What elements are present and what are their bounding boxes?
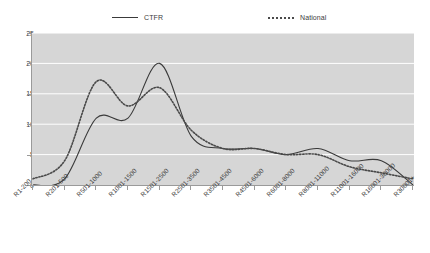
plot-svg xyxy=(32,33,414,185)
x-tick-mark xyxy=(317,186,318,190)
legend-label-national: National xyxy=(300,14,326,21)
x-tick-mark xyxy=(254,186,255,190)
plot-area xyxy=(31,33,414,186)
x-tick-mark xyxy=(380,186,381,190)
x-tick-mark xyxy=(159,186,160,190)
x-tick-mark xyxy=(127,186,128,190)
x-tick-mark xyxy=(222,186,223,190)
legend-swatch-solid-line-icon xyxy=(112,13,138,21)
x-tick-mark xyxy=(349,186,350,190)
legend-label-ctfr: CTFR xyxy=(144,14,163,21)
x-tick-mark xyxy=(64,186,65,190)
x-tick-mark xyxy=(412,186,413,190)
x-tick-mark xyxy=(95,186,96,190)
line-chart: CTFR National 2520151050 R1-200R201-500R… xyxy=(0,0,430,253)
legend-entry-national: National xyxy=(268,8,326,26)
chart-legend: CTFR National xyxy=(0,8,430,26)
x-tick-mark xyxy=(32,186,33,190)
legend-swatch-dotted-line-icon xyxy=(268,13,294,21)
x-tick-mark xyxy=(285,186,286,190)
legend-entry-ctfr: CTFR xyxy=(112,8,163,26)
x-tick-mark xyxy=(190,186,191,190)
